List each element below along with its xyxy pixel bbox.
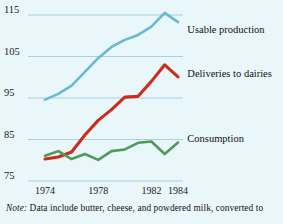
y-axis-tick-label: 105: [4, 46, 20, 57]
chart-footnote: Note: Data include butter, cheese, and p…: [6, 203, 281, 213]
x-axis-tick-label: 1974: [35, 185, 55, 196]
footnote-text: Data include butter, cheese, and powdere…: [30, 203, 264, 213]
x-axis-tick-label: 1982: [141, 185, 161, 196]
y-axis-tick-label: 75: [4, 170, 15, 181]
series-label: Consumption: [187, 133, 244, 144]
figure-panel: 758595105115 1974197819821984 Usable pro…: [0, 0, 283, 224]
y-axis-tick-label: 95: [4, 87, 15, 98]
line-chart-svg: 758595105115 1974197819821984 Usable pro…: [0, 0, 283, 200]
footnote-prefix: Note:: [6, 203, 27, 213]
y-axis-tick-label: 115: [4, 4, 19, 15]
chart-plot-area: 758595105115 1974197819821984 Usable pro…: [0, 0, 283, 200]
x-axis-tick-label: 1978: [88, 185, 108, 196]
series-label: Usable production: [187, 24, 265, 35]
y-axis-tick-label: 85: [4, 129, 15, 140]
x-axis-tick-label: 1984: [168, 185, 188, 196]
series-label: Deliveries to dairies: [187, 68, 272, 79]
